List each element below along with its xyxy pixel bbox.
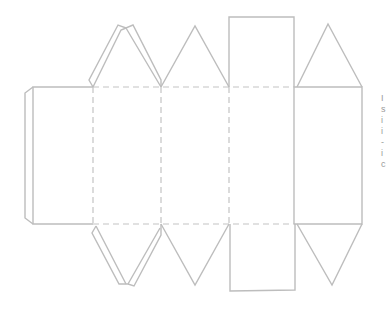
edge-char: I [381,93,388,104]
edge-char: i [381,115,388,126]
glue-flap [25,87,33,224]
edge-char: c [381,159,388,170]
body-outline [33,87,93,224]
cropped-edge-text: I s i i - i c [381,93,388,170]
edge-char: i [381,148,388,159]
bottom-flap-square [230,224,295,291]
edge-char: - [381,137,388,148]
edge-char: s [381,104,388,115]
top-flap-square [229,17,294,87]
box-net-diagram [0,0,388,317]
bottom-flap-double-triangle [92,224,161,286]
top-flap-double-triangle [89,25,161,87]
top-flap-triangle [161,26,229,87]
top-flap-double-triangle-inner [93,28,161,87]
edge-char: i [381,126,388,137]
top-flap-triangle-right [297,24,362,87]
bottom-flap-triangle-right [297,224,362,285]
top-right-extension [294,87,362,224]
bottom-flap-triangle [161,224,229,285]
